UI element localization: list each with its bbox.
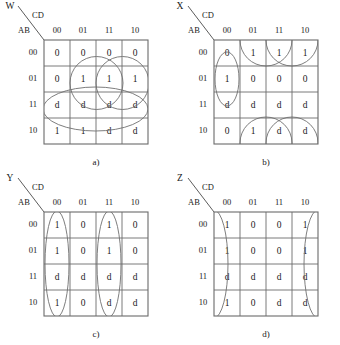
groupings-b xyxy=(215,14,318,169)
cell-a-r3c0: 1 xyxy=(55,126,60,136)
cell-b-r0c1: 1 xyxy=(251,48,256,58)
cell-c-r1c3: 0 xyxy=(133,246,138,256)
cell-b-r1c2: 0 xyxy=(277,74,282,84)
col-header-d-1: 01 xyxy=(249,197,258,207)
cell-b-r3c3: d xyxy=(303,126,308,136)
cell-a-r0c1: 0 xyxy=(81,48,86,58)
cell-b-r3c1: 1 xyxy=(251,126,256,136)
row-header-a-3: 10 xyxy=(29,125,38,135)
cell-b-r2c2: d xyxy=(277,100,282,110)
cell-a-r0c0: 0 xyxy=(55,48,60,58)
row-header-a-2: 11 xyxy=(29,99,37,109)
cell-c-r0c3: 0 xyxy=(133,220,138,230)
cell-d-r3c3: d xyxy=(303,298,308,308)
output-label-a: W xyxy=(6,1,15,11)
cell-b-r1c0: 1 xyxy=(225,74,230,84)
cell-d-r0c3: 1 xyxy=(303,220,308,230)
cell-d-r2c1: d xyxy=(251,272,256,282)
output-label-b: X xyxy=(177,1,184,11)
cell-d-r2c3: d xyxy=(303,272,308,282)
group-a-circle-right xyxy=(96,57,149,110)
cell-a-r0c2: 0 xyxy=(107,48,112,58)
cell-a-r2c3: d xyxy=(133,100,138,110)
karnaugh-map-a: WCDAB000111100001111000000111dddd11dda) xyxy=(0,0,170,172)
col-header-c-2: 11 xyxy=(105,197,113,207)
cell-c-r2c2: d xyxy=(107,272,112,282)
map-header-c: YCDAB xyxy=(7,173,44,212)
col-header-d-2: 11 xyxy=(275,197,283,207)
cell-d-r0c2: 0 xyxy=(277,220,282,230)
row-header-d-0: 00 xyxy=(199,219,208,229)
cell-d-r3c1: 0 xyxy=(251,298,256,308)
cell-c-r0c1: 0 xyxy=(81,220,86,230)
cell-a-r0c3: 0 xyxy=(133,48,138,58)
col-axis-label-b: CD xyxy=(202,10,214,20)
row-axis-label-b: AB xyxy=(188,25,200,35)
cell-c-r3c1: 0 xyxy=(81,298,86,308)
cell-c-r3c3: d xyxy=(133,298,138,308)
cell-a-r1c2: 1 xyxy=(107,74,112,84)
row-header-c-1: 01 xyxy=(29,245,38,255)
map-header-a: WCDAB xyxy=(6,1,44,40)
col-header-c-0: 00 xyxy=(53,197,62,207)
cell-c-r1c1: 0 xyxy=(81,246,86,256)
col-header-d-3: 10 xyxy=(301,197,310,207)
cell-b-r3c0: 0 xyxy=(225,126,230,136)
col-header-d-0: 00 xyxy=(223,197,232,207)
output-label-c: Y xyxy=(7,173,14,183)
cell-b-r2c0: d xyxy=(225,100,230,110)
row-header-b-2: 11 xyxy=(199,99,207,109)
col-header-a-1: 01 xyxy=(79,25,88,35)
cell-c-r3c0: 1 xyxy=(55,298,60,308)
cell-b-r0c3: 1 xyxy=(303,48,308,58)
caption-b: b) xyxy=(262,157,270,167)
cell-c-r3c2: d xyxy=(107,298,112,308)
row-header-c-3: 10 xyxy=(29,297,38,307)
row-header-b-3: 10 xyxy=(199,125,208,135)
col-axis-label-d: CD xyxy=(202,182,214,192)
row-header-a-0: 00 xyxy=(29,47,38,57)
caption-c: c) xyxy=(93,329,100,339)
row-header-d-2: 11 xyxy=(199,271,207,281)
col-header-c-1: 01 xyxy=(79,197,88,207)
caption-d: d) xyxy=(262,329,270,339)
karnaugh-map-d: ZCDAB000111100001111010011001dddd10ddd) xyxy=(170,172,340,344)
cell-d-r0c1: 0 xyxy=(251,220,256,230)
cell-c-r0c0: 1 xyxy=(55,220,60,230)
cell-c-r2c0: d xyxy=(55,272,60,282)
map-header-d: ZCDAB xyxy=(177,173,214,212)
row-axis-label-a: AB xyxy=(18,25,30,35)
row-header-a-1: 01 xyxy=(29,73,38,83)
karnaugh-map-b: XCDAB000111100001111001111000dddd01ddb) xyxy=(170,0,340,172)
karnaugh-map-c: YCDAB000111100001111010101010dddd10ddc) xyxy=(0,172,170,344)
row-axis-label-c: AB xyxy=(18,197,30,207)
cell-d-r0c0: 1 xyxy=(225,220,230,230)
row-header-b-1: 01 xyxy=(199,73,208,83)
cell-c-r1c0: 1 xyxy=(55,246,60,256)
cell-a-r3c3: d xyxy=(133,126,138,136)
cell-b-r1c1: 0 xyxy=(251,74,256,84)
col-header-a-0: 00 xyxy=(53,25,62,35)
cell-b-r2c1: d xyxy=(251,100,256,110)
row-header-b-0: 00 xyxy=(199,47,208,57)
col-axis-label-c: CD xyxy=(32,182,44,192)
col-header-b-1: 01 xyxy=(249,25,258,35)
caption-a: a) xyxy=(93,157,100,167)
row-header-d-3: 10 xyxy=(199,297,208,307)
cell-a-r1c0: 0 xyxy=(55,74,60,84)
cell-d-r3c0: 1 xyxy=(225,298,230,308)
map-header-b: XCDAB xyxy=(177,1,214,40)
cell-a-r1c1: 1 xyxy=(81,74,86,84)
col-header-b-0: 00 xyxy=(223,25,232,35)
row-header-c-2: 11 xyxy=(29,271,37,281)
cell-c-r0c2: 1 xyxy=(107,220,112,230)
col-header-a-2: 11 xyxy=(105,25,113,35)
row-axis-label-d: AB xyxy=(188,197,200,207)
cell-b-r1c3: 0 xyxy=(303,74,308,84)
output-label-d: Z xyxy=(177,173,183,183)
col-header-b-3: 10 xyxy=(301,25,310,35)
row-header-d-1: 01 xyxy=(199,245,208,255)
cell-b-r0c2: 1 xyxy=(277,48,282,58)
cell-c-r2c1: d xyxy=(81,272,86,282)
col-header-b-2: 11 xyxy=(275,25,283,35)
